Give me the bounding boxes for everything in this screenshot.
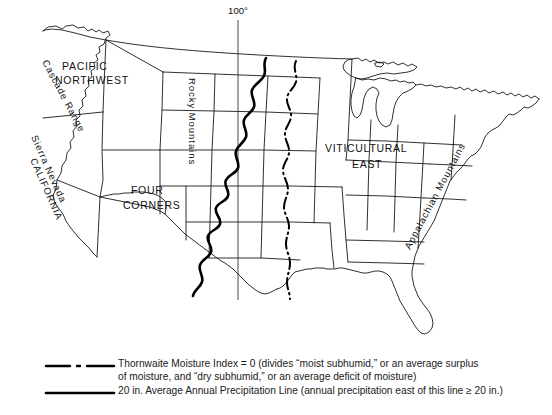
map-legend: Thornwaite Moisture Index = 0 (divides “… [0,352,552,415]
legend-label-precipitation: 20 in. Average Annual Precipitation Line… [118,385,503,398]
map-text-labels: 100° PACIFIC NORTHWEST FOUR CORNERS VITI… [28,5,467,251]
label-appalachian-mountains: Appalachian Mountains [402,141,467,251]
label-pacific-northwest-line2: NORTHWEST [55,74,129,86]
label-rocky-mountains: Rocky Mountains [187,78,198,165]
precipitation-line-20in [193,58,266,296]
solid-line-icon [44,386,118,399]
thornwaite-index-line [283,61,296,299]
map-svg: 100° PACIFIC NORTHWEST FOUR CORNERS VITI… [0,0,552,352]
label-viticultural-east-line2: EAST [352,158,382,170]
label-pacific-northwest-line1: PACIFIC [62,60,108,72]
national-outline [43,25,539,334]
legend-item-precipitation: 20 in. Average Annual Precipitation Line… [44,385,503,399]
label-four-corners-line1: FOUR [131,184,164,196]
legend-label-thornwaite: Thornwaite Moisture Index = 0 (divides “… [118,358,478,383]
label-viticultural-east-line1: VITICULTURAL [325,142,407,154]
meridian-label: 100° [228,5,248,16]
label-four-corners-line2: CORNERS [123,199,180,211]
legend-item-thornwaite: Thornwaite Moisture Index = 0 (divides “… [44,358,478,383]
dash-dot-line-icon [44,359,118,372]
